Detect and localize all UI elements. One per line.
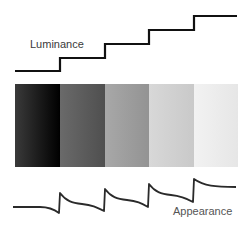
appearance-label: Appearance: [173, 205, 232, 217]
gray-bar-3: [105, 84, 149, 167]
gray-bar-2: [60, 84, 105, 167]
luminance-label: Luminance: [30, 38, 84, 50]
gray-bar-4: [149, 84, 194, 167]
diagram-canvas: [0, 0, 249, 233]
gray-bar-1: [15, 84, 60, 167]
gray-bar-5: [194, 84, 238, 167]
